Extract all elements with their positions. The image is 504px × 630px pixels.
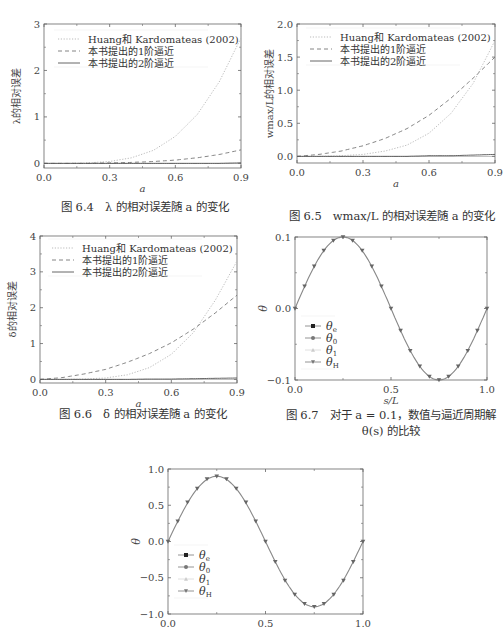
y-tick-label: 0.0 [148,536,164,547]
data-marker [263,540,268,544]
x-tick-label: 0.0 [32,387,48,398]
legend-label: θH [326,356,339,370]
x-tick-label: 0.0 [289,167,305,178]
legend-label: 本书提出的1阶逼近 [82,254,168,266]
y-tick-label: 0 [34,158,40,169]
caption-text-line2: θ(s) 的比较 [362,424,420,438]
y-tick-label: 2 [30,302,36,313]
data-marker [185,501,190,505]
figures-canvas: 01230.00.30.60.9aλ的相对误差Huang和 Kardomatea… [0,0,504,630]
x-tick-label: 0.5 [258,618,274,629]
x-axis-label: s/L [383,395,399,406]
legend-label: θH [199,585,212,599]
y-axis-label: λ的相对误差 [10,68,22,124]
legend-label: Huang和 Kardomateas (2002) [340,32,491,43]
legend-label: Huang和 Kardomateas (2002) [82,243,233,254]
y-axis-label: θ [130,538,143,545]
caption-number: 图 6.7 [286,408,319,422]
caption-fig-6-6: 图 6.6 δ 的相对误差随 a 的变化 [38,405,248,421]
x-tick-label: 1.0 [355,618,371,629]
x-tick-label: 0.6 [167,172,183,183]
y-tick-label: 3 [34,19,40,30]
x-axis-label: a [393,178,399,189]
series-line [44,150,241,164]
x-tick-label: 0.3 [355,167,371,178]
y-tick-label: 3 [30,266,36,277]
y-tick-label: 0.0 [275,303,291,314]
caption-number: 图 6.5 [289,209,322,223]
y-tick-label: 1 [34,111,40,122]
x-tick-label: 0.3 [98,387,114,398]
y-tick-label: 2.0 [277,19,293,30]
data-marker [389,307,394,311]
x-tick-label: 0.3 [102,172,118,183]
circle-marker-icon [184,565,188,569]
x-tick-label: 0.5 [383,384,399,395]
legend-label: 本书提出的2阶逼近 [88,57,174,69]
legend-label: 本书提出的1阶逼近 [88,45,174,57]
caption-fig-6-7: 图 6.7 对于 a = 0.1，数值与逼近周期解 θ(s) 的比较 [278,406,504,438]
caption-number: 图 6.4 [61,200,94,214]
data-marker [475,329,480,333]
chart-fig-6-8-partial: −1.0−0.50.00.51.00.00.51.0θθeθ0θ1θH [130,464,371,630]
y-axis-label: θ [257,305,270,312]
y-tick-label: 1.5 [277,52,293,63]
y-tick-label: 0.1 [275,232,291,243]
chart-fig-6-5: 0.00.51.01.52.00.00.30.60.9awmax/L的相对误差H… [263,19,503,190]
y-tick-label: 1.0 [148,464,164,475]
x-tick-label: 0.6 [163,387,179,398]
chart-fig-6-6: 012340.00.30.60.9aδ的相对误差Huang和 Kardomate… [6,231,245,410]
series-line [297,154,495,156]
y-tick-label: 4 [30,231,36,242]
y-tick-label: 0 [30,374,36,385]
caption-text: λ 的相对误差随 a 的变化 [105,200,229,214]
data-marker [253,519,258,523]
legend-label: 本书提出的2阶逼近 [340,55,426,67]
series-line [297,57,495,156]
y-tick-label: 0.5 [277,118,293,129]
square-marker-icon [184,553,188,557]
series-line [40,261,237,379]
x-axis-label: a [140,183,146,194]
x-tick-label: 0.9 [487,167,503,178]
series-line [40,295,237,379]
y-tick-label: 0.5 [148,500,164,511]
data-marker [398,329,403,333]
data-marker [408,349,413,353]
y-tick-label: 0.0 [277,151,293,162]
x-tick-label: 0.0 [160,618,176,629]
chart-fig-6-4: 01230.00.30.60.9aλ的相对误差Huang和 Kardomatea… [10,19,249,195]
y-tick-label: 1 [30,338,36,349]
data-marker [302,285,307,289]
caption-fig-6-5: 图 6.5 wmax/L 的相对误差随 a 的变化 [282,207,502,223]
legend-label: 本书提出的1阶逼近 [340,43,426,55]
y-tick-label: 1.0 [277,85,293,96]
legend-label: 本书提出的2阶逼近 [82,266,168,278]
square-marker-icon [311,324,315,328]
caption-fig-6-4: 图 6.4 λ 的相对误差随 a 的变化 [40,198,250,214]
data-marker [370,265,375,269]
caption-number: 图 6.6 [59,407,92,421]
data-marker [351,560,356,564]
legend-label: Huang和 Kardomateas (2002) [88,34,239,45]
series-line [44,163,241,164]
y-tick-label: 2 [34,65,40,76]
x-tick-label: 1.0 [479,384,495,395]
x-tick-label: 0.6 [421,167,437,178]
y-axis-label: δ的相对误差 [6,281,18,337]
x-tick-label: 0.9 [233,172,249,183]
x-tick-label: 0.0 [36,172,52,183]
data-marker [244,501,249,505]
caption-text: δ 的相对误差随 a 的变化 [103,407,227,421]
circle-marker-icon [311,336,315,340]
data-marker [175,519,180,523]
data-marker [379,285,384,289]
chart-fig-6-7: −0.10.00.10.00.51.0s/Lθθeθ0θ1θH [257,232,495,407]
data-marker [466,349,471,353]
y-axis-label: wmax/L的相对误差 [263,49,275,139]
caption-text: wmax/L 的相对误差随 a 的变化 [333,209,495,223]
x-tick-label: 0.9 [229,387,245,398]
data-marker [312,265,317,269]
y-tick-label: −0.5 [140,572,164,583]
x-tick-label: 0.0 [287,384,303,395]
